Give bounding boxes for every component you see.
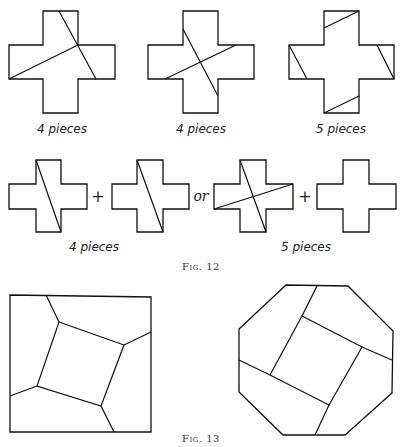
cross-4b (112, 160, 189, 232)
piece-count-label: 4 pieces (176, 122, 226, 136)
plus-sign: + (91, 187, 104, 206)
group-label-5-pieces: 5 pieces (281, 240, 331, 254)
cross-5a (214, 160, 293, 232)
cross-5b (317, 160, 396, 232)
figure-12-caption: Fig. 12 (182, 261, 220, 272)
group-label-4-pieces: 4 pieces (69, 240, 119, 254)
cross-4a (9, 160, 87, 232)
or-text: or (193, 188, 208, 204)
piece-count-label: 5 pieces (316, 122, 366, 136)
piece-count-label: 4 pieces (37, 122, 87, 136)
figure-13-caption: Fig. 13 (182, 433, 220, 444)
square-dissection (10, 295, 151, 432)
octagon-dissection (239, 285, 393, 435)
cross-3-5-pieces (289, 11, 394, 113)
cross-2-4-pieces (148, 11, 254, 113)
plus-sign: + (298, 187, 311, 206)
cross-1-4-pieces (9, 11, 115, 113)
diagram-canvas (0, 0, 403, 447)
